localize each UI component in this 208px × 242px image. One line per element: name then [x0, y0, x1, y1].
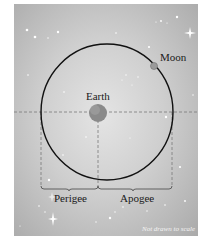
earth-icon	[89, 104, 107, 122]
earth-label: Earth	[86, 90, 110, 102]
stars	[19, 16, 193, 227]
scale-note: Not drawn to scale	[142, 225, 195, 233]
moon-icon	[151, 63, 158, 70]
distance-bracket	[41, 186, 172, 191]
orbit-diagram	[0, 0, 208, 242]
moon-label: Moon	[160, 51, 186, 63]
apogee-label: Apogee	[120, 192, 154, 204]
perigee-label: Perigee	[54, 192, 87, 204]
